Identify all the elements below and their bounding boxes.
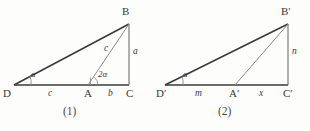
segment-AB-cevian [88,24,129,85]
geometry-diagram-page: B D A C c b c a α 2α (1) B′ D′ A′ C′ m x [0,0,310,131]
vertex-label-A: A [84,88,92,99]
figure-1-drawing [0,0,155,131]
figure-caption: (2) [218,106,231,118]
vertex-label-B: B′ [281,6,291,17]
segment-label-right-leg: a [133,47,138,57]
vertex-label-A: A′ [229,88,239,99]
vertex-label-C: C [126,88,133,99]
segment-label-right-leg: n [292,47,297,57]
vertex-label-D: D [3,88,11,99]
segment-label-base-right: x [259,89,263,99]
segment-label-base-left: c [48,89,52,99]
angle-label-at-A: 2α [98,70,107,79]
figure-caption: (1) [63,106,76,118]
segment-label-base-right: b [108,89,113,99]
angle-label-at-D: α [31,70,36,79]
vertex-label-C: C′ [283,88,293,99]
figure-2-drawing [155,0,310,131]
vertex-label-D: D′ [156,88,166,99]
figure-2: B′ D′ A′ C′ m x n α (2) [155,0,310,131]
angle-label-at-D: α [183,70,188,79]
figure-1: B D A C c b c a α 2α (1) [0,0,155,131]
segment-label-cevian: c [104,44,108,54]
segment-label-base-left: m [195,89,202,99]
vertex-label-B: B [122,6,129,17]
segment-AB-cevian [235,24,288,85]
